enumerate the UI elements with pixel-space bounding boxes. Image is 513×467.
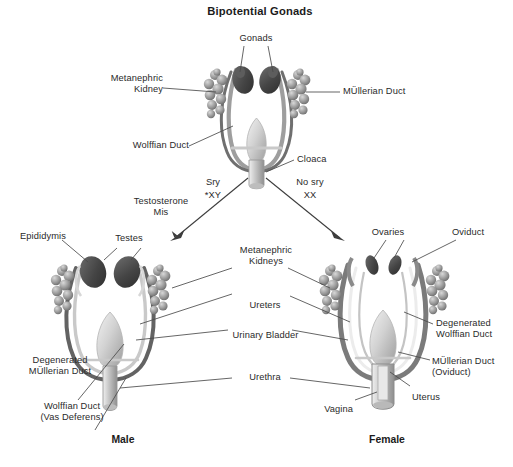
label-mullerian-duct: MÜllerian Duct <box>343 86 453 97</box>
label-testes: Testes <box>104 233 154 244</box>
label-epididymis: Epididymis <box>20 231 90 242</box>
label-hormones: Testosterone Mis <box>112 196 210 219</box>
label-no-sry: No sry <box>286 177 334 188</box>
female-figure <box>319 254 450 410</box>
bipotential-figure <box>204 64 311 189</box>
label-degenerated-mullerian-duct: Degenerated MÜllerian Duct <box>10 355 110 378</box>
label-degenerated-wolffian-duct: Degenerated Wolffian Duct <box>436 318 513 341</box>
label-xx-karyotype: XX <box>286 190 334 201</box>
label-vagina: Vagina <box>305 404 353 415</box>
label-metanephric-kidneys: Metanephric Kidneys <box>227 245 305 268</box>
label-ovaries: Ovaries <box>362 227 414 238</box>
label-male: Male <box>93 434 153 445</box>
karyotype-xy: XY <box>209 190 222 200</box>
label-wolffian-duct-vas-deferens: Wolffian Duct (Vas Deferens) <box>22 401 122 424</box>
label-urethra: Urethra <box>234 372 296 383</box>
testis-right <box>110 253 144 291</box>
ovary-left <box>363 254 381 277</box>
page-title: Bipotential Gonads <box>180 5 340 17</box>
female-kidney-right <box>426 264 450 314</box>
label-ureters: Ureters <box>234 300 296 311</box>
female-kidney-left <box>319 264 343 314</box>
bladder <box>247 118 266 163</box>
label-female: Female <box>355 434 419 445</box>
uterus-shape <box>378 366 388 400</box>
diagram-canvas: Bipotential Gonads Gonads Metanephric Ki… <box>0 0 513 467</box>
label-metanephric-kidney: Metanephric Kidney <box>88 73 163 96</box>
male-figure <box>51 253 171 410</box>
label-urinary-bladder: Urinary Bladder <box>218 330 313 341</box>
label-wolffian-duct: Wolffian Duct <box>104 140 189 151</box>
label-gonads: Gonads <box>226 33 286 44</box>
label-uterus: Uterus <box>412 392 462 403</box>
label-oviduct: Oviduct <box>452 227 510 238</box>
male-kidney-right <box>147 264 171 314</box>
label-cloaca: Cloaca <box>297 154 357 165</box>
label-mullerian-duct-oviduct: MÜllerian Duct (Oviduct) <box>432 356 513 379</box>
label-sry: Sry <box>196 177 230 188</box>
